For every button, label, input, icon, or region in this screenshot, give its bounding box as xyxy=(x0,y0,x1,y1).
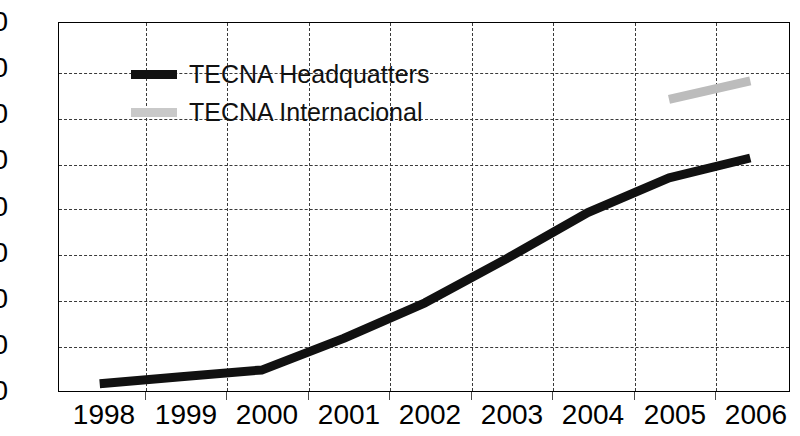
y-tick-label: 700 xyxy=(0,54,8,82)
gridline-vertical xyxy=(635,23,636,391)
x-tick xyxy=(145,392,146,400)
legend-swatch-icon xyxy=(131,108,177,117)
x-tick xyxy=(471,392,472,400)
gridline-horizontal xyxy=(59,209,789,210)
y-tick-label: 100 xyxy=(0,331,8,359)
y-tick-label: 400 xyxy=(0,193,8,221)
legend: TECNA Headquatters TECNA Internacional xyxy=(131,55,431,131)
x-tick xyxy=(226,392,227,400)
x-tick xyxy=(552,392,553,400)
x-tick xyxy=(308,392,309,400)
legend-swatch-icon xyxy=(131,70,177,79)
x-tick-label: 2006 xyxy=(701,400,800,431)
plot-area: TECNA Headquatters TECNA Internacional xyxy=(58,22,790,392)
y-tick-label: 500 xyxy=(0,146,8,174)
series-line-tecna-internacional xyxy=(669,81,750,100)
gridline-horizontal xyxy=(59,255,789,256)
x-tick xyxy=(389,392,390,400)
y-tick-label: 0 xyxy=(0,377,8,405)
gridline-horizontal xyxy=(59,165,789,166)
legend-item-tecna-internacional: TECNA Internacional xyxy=(131,93,431,131)
x-tick xyxy=(634,392,635,400)
gridline-horizontal xyxy=(59,301,789,302)
y-tick-label: 600 xyxy=(0,100,8,128)
line-chart: 800 700 600 500 400 300 200 100 0 xyxy=(0,0,800,436)
y-tick-label: 300 xyxy=(0,239,8,267)
y-tick-label: 200 xyxy=(0,285,8,313)
legend-item-label: TECNA Internacional xyxy=(189,100,422,125)
gridline-horizontal xyxy=(59,347,789,348)
gridline-vertical xyxy=(716,23,717,391)
x-tick xyxy=(715,392,716,400)
gridline-vertical xyxy=(553,23,554,391)
legend-item-tecna-headquatters: TECNA Headquatters xyxy=(131,55,431,93)
legend-item-label: TECNA Headquatters xyxy=(189,62,429,87)
series-line-tecna-headquatters xyxy=(100,158,751,384)
gridline-vertical xyxy=(472,23,473,391)
y-tick-label: 800 xyxy=(0,8,8,36)
